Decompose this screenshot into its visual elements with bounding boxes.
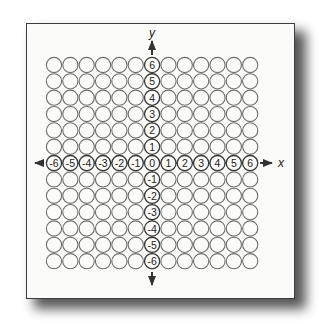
x-axis-label: x <box>277 156 285 170</box>
grid-circle <box>194 106 209 121</box>
grid-circle <box>63 221 78 236</box>
y-tick-label: -2 <box>147 190 156 202</box>
grid-circle <box>210 254 225 269</box>
grid-circle <box>210 139 225 154</box>
grid-circle <box>79 205 94 220</box>
grid-circle <box>79 221 94 236</box>
grid-circle <box>46 57 61 72</box>
grid-circle <box>243 188 258 203</box>
grid-circle <box>210 74 225 89</box>
x-tick-label: -3 <box>98 157 107 169</box>
grid-circle <box>161 237 176 252</box>
grid-circle <box>79 139 94 154</box>
grid-circle <box>95 188 110 203</box>
y-tick-label: 6 <box>149 59 155 71</box>
grid-circle <box>46 139 61 154</box>
grid-circle <box>63 254 78 269</box>
grid-circle <box>226 74 241 89</box>
x-tick-label: -6 <box>49 157 58 169</box>
grid-circle <box>79 106 94 121</box>
grid-circle <box>95 57 110 72</box>
grid-circle <box>46 172 61 187</box>
grid-circle <box>226 139 241 154</box>
y-tick-label: 3 <box>149 108 155 120</box>
grid-circle <box>226 106 241 121</box>
grid-circle <box>128 221 143 236</box>
grid-circle <box>243 254 258 269</box>
grid-circle <box>128 188 143 203</box>
grid-circle <box>63 123 78 138</box>
grid-circle <box>161 172 176 187</box>
grid-circle <box>63 106 78 121</box>
grid-circle <box>46 237 61 252</box>
grid-circle <box>95 106 110 121</box>
grid-circle <box>79 57 94 72</box>
grid-circle <box>226 57 241 72</box>
grid-circle <box>79 90 94 105</box>
grid-circle <box>161 123 176 138</box>
grid-circle <box>112 139 127 154</box>
grid-circle <box>63 205 78 220</box>
grid-circle <box>128 139 143 154</box>
grid-circle <box>243 139 258 154</box>
grid-circle <box>128 205 143 220</box>
grid-circle <box>46 123 61 138</box>
grid-circle <box>46 205 61 220</box>
grid-circle <box>194 237 209 252</box>
y-tick-label: -3 <box>147 206 156 218</box>
grid-circle <box>161 221 176 236</box>
grid-circle <box>161 57 176 72</box>
grid-circle <box>226 221 241 236</box>
grid-circle <box>177 221 192 236</box>
grid-circle <box>177 74 192 89</box>
grid-circle <box>226 188 241 203</box>
grid-circle <box>63 74 78 89</box>
y-axis-label: y <box>148 26 156 40</box>
grid-circle <box>177 205 192 220</box>
grid-circle <box>194 205 209 220</box>
grid-circle <box>194 74 209 89</box>
grid-circle <box>226 205 241 220</box>
y-tick-label: 2 <box>149 124 155 136</box>
grid-circle <box>210 106 225 121</box>
grid-circle <box>128 74 143 89</box>
grid-circle <box>128 237 143 252</box>
y-tick-label: -4 <box>147 223 156 235</box>
grid-circle <box>177 139 192 154</box>
grid-circle <box>95 139 110 154</box>
grid-circle <box>226 237 241 252</box>
grid-circle <box>210 188 225 203</box>
grid-circle <box>177 254 192 269</box>
grid-circle <box>79 237 94 252</box>
grid-circle <box>177 188 192 203</box>
grid-circle <box>95 90 110 105</box>
grid-circle <box>63 172 78 187</box>
grid-circle <box>226 123 241 138</box>
grid-circle <box>46 221 61 236</box>
grid-circle <box>46 106 61 121</box>
grid-circle <box>112 123 127 138</box>
grid-circle <box>194 139 209 154</box>
grid-circle <box>243 106 258 121</box>
grid-circle <box>63 57 78 72</box>
grid-circle <box>243 57 258 72</box>
grid-circle <box>79 74 94 89</box>
grid-circle <box>161 254 176 269</box>
grid-circle <box>194 254 209 269</box>
grid-circle <box>95 254 110 269</box>
x-tick-label: 5 <box>231 157 237 169</box>
grid-circle <box>112 172 127 187</box>
diagram-stage: x y -6-5-4-3-2-11234566543210-1-2-3-4-5-… <box>0 0 319 324</box>
grid-circle <box>161 106 176 121</box>
grid-circle <box>128 57 143 72</box>
x-tick-label: 4 <box>215 157 221 169</box>
grid-circle <box>46 188 61 203</box>
grid-circle <box>112 90 127 105</box>
grid-circle <box>210 221 225 236</box>
grid-circle <box>243 205 258 220</box>
grid-circle <box>112 74 127 89</box>
y-tick-label: 1 <box>149 141 155 153</box>
grid-circle <box>128 123 143 138</box>
grid-circle <box>79 254 94 269</box>
grid-circle <box>112 57 127 72</box>
